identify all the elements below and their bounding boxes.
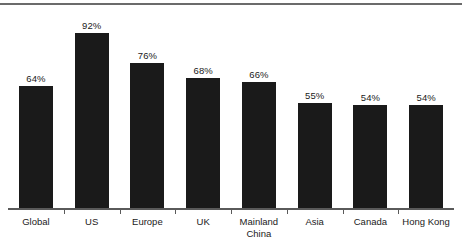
- top-divider-rule: [0, 3, 462, 5]
- axis-tick: [231, 209, 232, 214]
- bar-rect: [353, 105, 387, 208]
- bar-rect: [409, 105, 443, 208]
- category-label: US: [64, 216, 120, 228]
- axis-tick: [175, 209, 176, 214]
- category-label: UK: [175, 216, 231, 228]
- category-label: Asia: [287, 216, 343, 228]
- bar-chart: 64%92%76%68%66%55%54%54% GlobalUSEuropeU…: [0, 0, 462, 248]
- bar-value-label: 55%: [305, 90, 324, 101]
- axis-tick: [343, 209, 344, 214]
- bar-rect: [186, 78, 220, 208]
- bar-item: 92%: [75, 33, 109, 208]
- bar-item: 54%: [409, 105, 443, 208]
- bar-rect: [298, 103, 332, 208]
- bar-value-label: 54%: [361, 92, 380, 103]
- bar-item: 55%: [298, 103, 332, 208]
- bar-value-label: 66%: [249, 69, 268, 80]
- axis-tick: [120, 209, 121, 214]
- category-label: Global: [8, 216, 64, 228]
- category-label: Mainland China: [231, 216, 287, 239]
- bar-item: 68%: [186, 78, 220, 208]
- bar-rect: [19, 86, 53, 208]
- category-label: Europe: [120, 216, 176, 228]
- bar-value-label: 76%: [138, 50, 157, 61]
- axis-tick: [287, 209, 288, 214]
- bar-rect: [75, 33, 109, 208]
- bar-rect: [242, 82, 276, 208]
- axis-tick: [398, 209, 399, 214]
- bar-item: 54%: [353, 105, 387, 208]
- bar-value-label: 92%: [82, 20, 101, 31]
- bar-rect: [130, 63, 164, 208]
- bar-value-label: 64%: [26, 73, 45, 84]
- bar-item: 66%: [242, 82, 276, 208]
- category-label: Hong Kong: [398, 216, 454, 228]
- category-label: Canada: [343, 216, 399, 228]
- axis-tick: [64, 209, 65, 214]
- bar-value-label: 54%: [417, 92, 436, 103]
- bar-value-label: 68%: [194, 65, 213, 76]
- bar-item: 64%: [19, 86, 53, 208]
- bar-item: 76%: [130, 63, 164, 208]
